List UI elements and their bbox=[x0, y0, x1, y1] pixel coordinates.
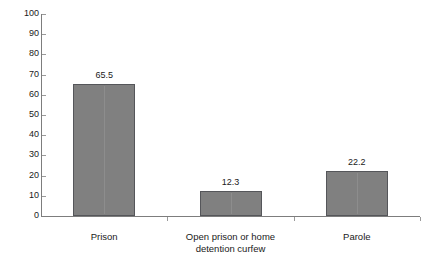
y-axis-tick-mark bbox=[42, 14, 46, 15]
x-axis-tick-mark bbox=[420, 217, 421, 221]
y-axis-tick-label: 50 bbox=[29, 109, 39, 120]
y-axis-tick-label: 30 bbox=[29, 149, 39, 160]
y-axis-tick-mark bbox=[42, 155, 46, 156]
x-axis-category-label-line: Prison bbox=[41, 231, 167, 243]
x-axis-category-label-line: Parole bbox=[294, 231, 420, 243]
bar bbox=[326, 171, 388, 216]
x-axis-tick-mark bbox=[167, 217, 168, 221]
bar-chart: 0102030405060708090100 65.5Prison12.3Ope… bbox=[0, 0, 435, 274]
bar-value-label: 22.2 bbox=[317, 157, 397, 168]
y-axis-tick-mark bbox=[42, 115, 46, 116]
y-axis-tick-label: 10 bbox=[29, 190, 39, 201]
x-axis-category-label-line: Open prison or home bbox=[167, 231, 293, 243]
bar bbox=[73, 84, 135, 216]
bar-value-label: 12.3 bbox=[191, 177, 271, 188]
y-axis-tick-label: 70 bbox=[29, 69, 39, 80]
x-axis-category-label: Parole bbox=[294, 231, 420, 243]
y-axis-tick-label: 40 bbox=[29, 129, 39, 140]
x-axis-category-label: Prison bbox=[41, 231, 167, 243]
x-axis-line bbox=[41, 216, 420, 217]
x-axis-tick-mark bbox=[294, 217, 295, 221]
y-axis-tick-mark bbox=[42, 196, 46, 197]
bar bbox=[200, 191, 262, 216]
y-axis-tick-label: 90 bbox=[29, 28, 39, 39]
x-axis-category-label-line: detention curfew bbox=[167, 243, 293, 255]
x-axis-category-label: Open prison or homedetention curfew bbox=[167, 231, 293, 255]
y-axis-tick-mark bbox=[42, 176, 46, 177]
y-axis-tick-mark bbox=[42, 34, 46, 35]
y-axis-tick-mark bbox=[42, 95, 46, 96]
y-axis-tick-mark bbox=[42, 75, 46, 76]
y-axis-tick-label: 80 bbox=[29, 48, 39, 59]
y-axis-tick-mark bbox=[42, 135, 46, 136]
y-axis-tick-label: 20 bbox=[29, 170, 39, 181]
y-axis-tick-label: 60 bbox=[29, 89, 39, 100]
y-axis-tick-label: 100 bbox=[24, 8, 39, 19]
y-axis-tick-label: 0 bbox=[34, 210, 39, 221]
bar-value-label: 65.5 bbox=[64, 70, 144, 81]
y-axis-tick-mark bbox=[42, 54, 46, 55]
